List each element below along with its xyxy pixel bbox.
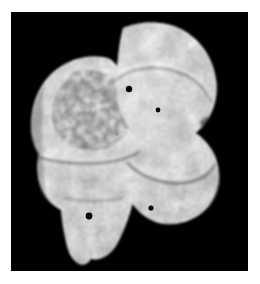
photo-frame: Grayscale photograph of a mottled fossil… bbox=[11, 12, 248, 271]
foramen-6 bbox=[142, 119, 145, 122]
specimen-illustration bbox=[11, 12, 248, 271]
foramen-1 bbox=[126, 86, 132, 92]
foramen-2 bbox=[156, 108, 161, 113]
specimen-image bbox=[11, 12, 248, 271]
foramen-3 bbox=[86, 213, 93, 220]
page-canvas: Grayscale photograph of a mottled fossil… bbox=[0, 0, 260, 284]
foramen-4 bbox=[148, 205, 153, 210]
foramen-5 bbox=[115, 132, 118, 135]
